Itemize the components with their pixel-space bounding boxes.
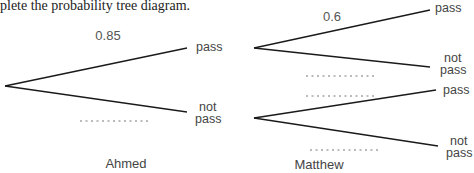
matthew-pn-pass-label: pass — [440, 63, 466, 77]
ahmed-name: Ahmed — [105, 156, 146, 171]
matthew-np-label: pass — [443, 83, 469, 97]
matthew-pp-label: pass — [435, 1, 461, 15]
ahmed-not-pass-branch — [5, 86, 187, 112]
matthew-pn-branch — [254, 48, 430, 67]
matthew-pp-branch — [254, 10, 430, 48]
matthew-np-branch — [254, 90, 436, 118]
ahmed-pass-label: pass — [196, 40, 222, 54]
matthew-nn-branch — [254, 118, 438, 146]
ahmed-not-pass-label: pass — [195, 112, 221, 126]
matthew-name: Matthew — [294, 157, 344, 172]
matthew-nn-pass-label: pass — [446, 146, 472, 160]
ahmed-pass-probability: 0.85 — [95, 28, 120, 43]
ahmed-pass-branch — [5, 48, 187, 86]
matthew-pass-probability: 0.6 — [323, 9, 341, 24]
probability-tree-diagram: 0.85 pass not pass 0.6 pass not pass pas… — [0, 0, 474, 173]
